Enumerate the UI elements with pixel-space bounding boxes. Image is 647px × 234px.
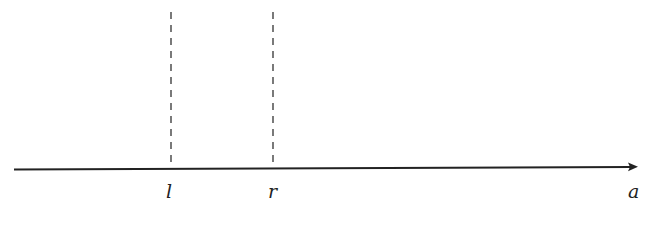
- marker-label-l: l: [166, 180, 172, 202]
- axis-line: [14, 167, 632, 170]
- diagram-canvas: [0, 0, 647, 234]
- axis-label-a: a: [628, 180, 639, 202]
- marker-label-r: r: [268, 180, 277, 202]
